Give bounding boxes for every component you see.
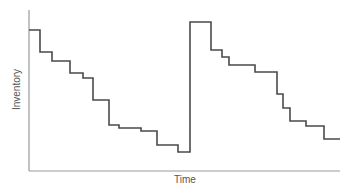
y-axis-label: Inventory <box>11 60 22 120</box>
inventory-line <box>29 22 340 152</box>
x-axis-label: Time <box>165 174 205 185</box>
inventory-step-chart <box>0 0 359 192</box>
